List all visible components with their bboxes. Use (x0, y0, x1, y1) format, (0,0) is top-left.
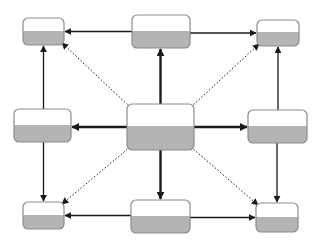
node-bottom-half (14, 125, 71, 142)
node-bottom-half (23, 215, 64, 229)
hub-diagram (0, 0, 321, 244)
node-top-center (132, 15, 190, 48)
node-bottom-half (248, 126, 307, 143)
edge-center-to-top-left (62, 43, 130, 107)
node-middle-right (248, 110, 307, 143)
edge-center-to-bottom-right (191, 147, 258, 205)
node-bottom-center (131, 200, 190, 233)
node-bottom-half (131, 216, 190, 233)
node-bottom-half (257, 32, 299, 46)
edge-center-to-bottom-left (62, 147, 130, 204)
node-center (127, 104, 194, 150)
node-top-left (23, 18, 64, 45)
edge-center-to-top-right (191, 44, 259, 107)
node-middle-left (14, 109, 71, 142)
node-bottom-half (127, 126, 194, 150)
node-bottom-left (23, 202, 64, 229)
node-bottom-half (23, 31, 64, 45)
node-bottom-half (132, 31, 190, 48)
node-bottom-right (256, 203, 298, 232)
node-top-right (257, 20, 299, 46)
node-bottom-half (256, 217, 298, 232)
nodes-layer (14, 15, 307, 233)
